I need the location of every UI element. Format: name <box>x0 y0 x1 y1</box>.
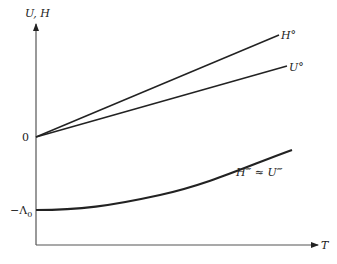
u-degree-label: U° <box>289 61 304 74</box>
h-triple-prime-label: H‴ ≈ U‴ <box>235 166 283 179</box>
h-degree-label: H° <box>280 29 296 42</box>
thermo-diagram: U, H T 0 −Λ0 H° U° H‴ ≈ U‴ <box>0 0 337 264</box>
lambda-subscript: 0 <box>27 210 32 219</box>
origin-label: 0 <box>22 131 29 144</box>
h-triple-prime-curve <box>36 150 292 210</box>
h-degree-line <box>36 35 279 137</box>
lambda-symbol: −Λ <box>10 204 28 217</box>
y-axis-label: U, H <box>25 7 50 20</box>
u-degree-line <box>36 66 287 137</box>
x-axis-label: T <box>321 239 330 252</box>
lambda-label: −Λ0 <box>10 204 32 219</box>
